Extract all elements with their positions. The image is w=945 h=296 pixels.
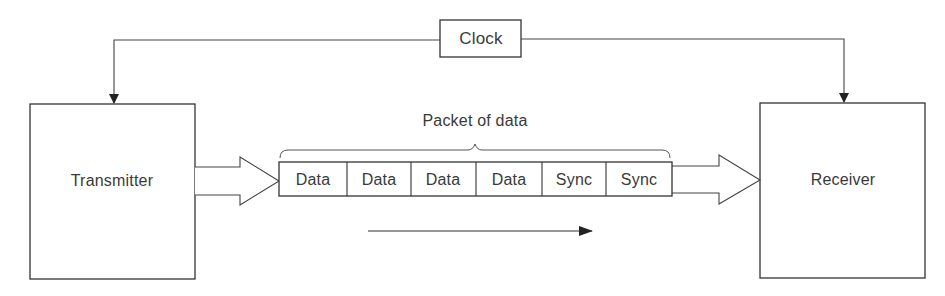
packet-cell-sync: Sync <box>556 171 592 189</box>
packet-cell-data: Data <box>296 171 331 189</box>
clock-label: Clock <box>459 29 503 49</box>
hollow-arrow-in-icon <box>195 157 279 205</box>
packet-cell-sync: Sync <box>621 171 657 189</box>
packet-row <box>279 162 672 196</box>
packet-cell-data: Data <box>426 171 461 189</box>
hollow-arrow-out-icon <box>672 155 760 204</box>
receiver-label: Receiver <box>811 171 876 189</box>
clock-line-to-transmitter <box>114 40 440 103</box>
packet-cell-data: Data <box>492 171 527 189</box>
clock-line-to-receiver <box>521 39 844 102</box>
transmitter-label: Transmitter <box>71 172 154 190</box>
packet-brace <box>280 144 670 158</box>
transmitter-box <box>30 104 195 279</box>
receiver-box <box>760 103 925 278</box>
packet-label: Packet of data <box>422 112 527 130</box>
packet-cell-data: Data <box>362 171 397 189</box>
